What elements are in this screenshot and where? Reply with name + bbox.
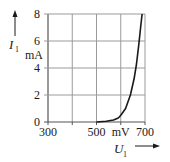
- x-axis-subscript: 1: [123, 150, 127, 159]
- y-axis-unit: mA: [25, 48, 43, 62]
- y-tick-label: 8: [34, 7, 40, 21]
- y-tick-label: 4: [34, 61, 40, 75]
- x-tick-label: mV: [112, 125, 130, 139]
- x-arrowhead-icon: [153, 144, 160, 149]
- diode-characteristic-chart: 02468 300500mV700 I 1 mA U 1: [0, 0, 170, 162]
- y-axis-subscript: 1: [15, 45, 19, 54]
- y-axis-symbol: I: [8, 37, 14, 52]
- y-arrowhead-icon: [13, 10, 18, 17]
- x-tick-label: 700: [136, 125, 154, 139]
- y-tick-label: 2: [34, 88, 40, 102]
- x-tick-label: 300: [39, 125, 57, 139]
- x-tick-label: 500: [88, 125, 106, 139]
- y-tick-labels: 02468: [34, 7, 40, 129]
- grid: [44, 14, 145, 125]
- y-tick-label: 6: [34, 34, 40, 48]
- x-tick-labels: 300500mV700: [39, 125, 154, 139]
- x-axis-label: U 1: [114, 141, 160, 159]
